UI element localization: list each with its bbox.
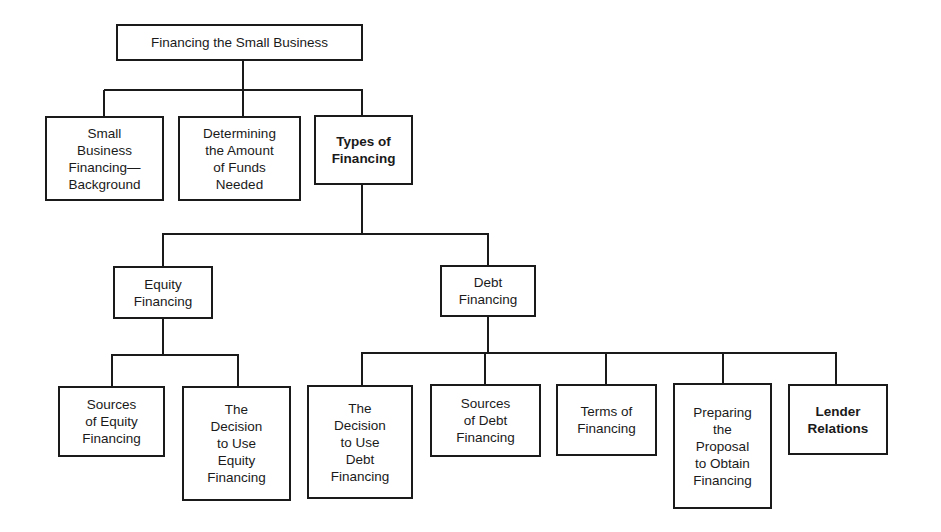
node-determining: Determining the Amount of Funds Needed — [178, 116, 301, 201]
node-sources-equity: Sources of Equity Financing — [58, 386, 165, 457]
node-sources-debt: Sources of Debt Financing — [430, 384, 541, 457]
node-decision-debt: The Decision to Use Debt Financing — [307, 385, 413, 499]
node-decision-equity: The Decision to Use Equity Financing — [182, 386, 291, 501]
node-debt: Debt Financing — [440, 265, 536, 317]
node-equity: Equity Financing — [113, 266, 213, 319]
node-types: Types of Financing — [314, 115, 413, 185]
node-root: Financing the Small Business — [116, 24, 363, 61]
node-lender: Lender Relations — [788, 384, 888, 455]
org-chart-diagram: Financing the Small Business Small Busin… — [0, 0, 941, 532]
node-preparing: Preparing the Proposal to Obtain Financi… — [673, 383, 772, 509]
node-background: Small Business Financing— Background — [45, 116, 164, 201]
node-terms: Terms of Financing — [556, 384, 657, 456]
